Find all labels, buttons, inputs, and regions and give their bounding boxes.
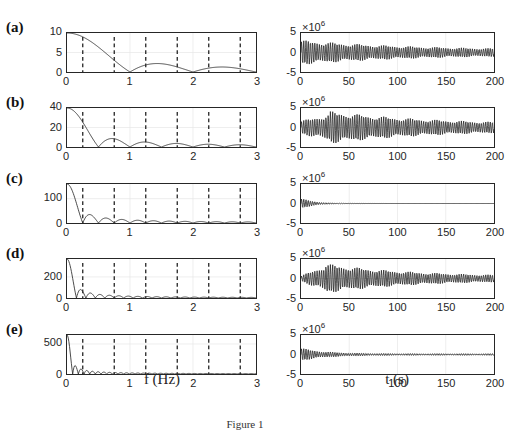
exponent-power: 6 [321, 19, 325, 28]
y-tick-label: 200 [32, 271, 62, 282]
x-tick-label: 0 [51, 227, 81, 238]
x-tick-label: 100 [383, 302, 413, 313]
exponent-power: 6 [321, 321, 325, 330]
left-xlabel: f (Hz) [112, 371, 212, 388]
x-tick-label: 0 [51, 378, 81, 389]
x-tick-label: 150 [431, 76, 461, 87]
y-tick-label: 0 [266, 349, 296, 360]
y-tick-label: 10 [32, 26, 62, 37]
y-scale-exponent: ×106 [302, 321, 325, 335]
y-tick-label: 0 [266, 198, 296, 209]
time-history-axes [300, 334, 495, 375]
x-tick-label: 0 [51, 76, 81, 87]
x-tick-label: 100 [383, 227, 413, 238]
panel-label: (c) [6, 170, 23, 187]
x-tick-label: 1 [115, 76, 145, 87]
spectrum-axes [66, 334, 257, 375]
time-history-axes [300, 258, 495, 299]
panel-label: (d) [6, 245, 24, 262]
y-tick-label: 0 [266, 47, 296, 58]
panel-label: (e) [6, 321, 23, 338]
y-tick-label: 100 [32, 192, 62, 203]
y-tick-label: 5 [266, 177, 296, 188]
x-tick-label: 200 [480, 378, 510, 389]
y-tick-label: 5 [266, 328, 296, 339]
x-tick-label: 150 [431, 227, 461, 238]
spectrum-axes [66, 107, 257, 148]
y-tick-label: 0 [266, 273, 296, 284]
y-tick-label: 40 [32, 101, 62, 112]
spectrum-axes [66, 183, 257, 224]
y-scale-exponent: ×106 [302, 170, 325, 184]
x-tick-label: 0 [285, 151, 315, 162]
x-tick-label: 2 [178, 151, 208, 162]
x-tick-label: 2 [178, 76, 208, 87]
x-tick-label: 200 [480, 151, 510, 162]
x-tick-label: 50 [334, 227, 364, 238]
x-tick-label: 50 [334, 151, 364, 162]
x-tick-label: 50 [334, 76, 364, 87]
spectrum-axes [66, 32, 257, 73]
x-tick-label: 2 [178, 302, 208, 313]
x-tick-label: 200 [480, 302, 510, 313]
x-tick-label: 100 [383, 76, 413, 87]
time-history-axes [300, 107, 495, 148]
x-tick-label: 0 [51, 302, 81, 313]
exponent-base: ×10 [302, 247, 321, 259]
panel-label: (b) [6, 94, 24, 111]
y-tick-label: 500 [32, 337, 62, 348]
x-tick-label: 0 [285, 302, 315, 313]
y-tick-label: 20 [32, 122, 62, 133]
x-tick-label: 2 [178, 227, 208, 238]
x-tick-label: 0 [285, 378, 315, 389]
figure-caption: Figure 1 [195, 418, 295, 430]
right-xlabel: t (s) [347, 371, 447, 388]
y-scale-exponent: ×106 [302, 245, 325, 259]
spectrum-axes [66, 258, 257, 299]
time-history-axes [300, 183, 495, 224]
x-tick-label: 100 [383, 151, 413, 162]
x-tick-label: 150 [431, 302, 461, 313]
y-tick-label: 0 [266, 122, 296, 133]
y-tick-label: 5 [266, 101, 296, 112]
x-tick-label: 150 [431, 151, 461, 162]
exponent-power: 6 [321, 94, 325, 103]
y-scale-exponent: ×106 [302, 19, 325, 33]
x-tick-label: 1 [115, 227, 145, 238]
y-tick-label: 5 [266, 252, 296, 263]
exponent-base: ×10 [302, 96, 321, 108]
time-history-axes [300, 32, 495, 73]
x-tick-label: 50 [334, 302, 364, 313]
exponent-power: 6 [321, 170, 325, 179]
x-tick-label: 200 [480, 76, 510, 87]
x-tick-label: 0 [285, 76, 315, 87]
x-tick-label: 0 [285, 227, 315, 238]
y-tick-label: 5 [266, 26, 296, 37]
y-tick-label: 5 [32, 47, 62, 58]
exponent-base: ×10 [302, 172, 321, 184]
x-tick-label: 0 [51, 151, 81, 162]
x-tick-label: 1 [115, 302, 145, 313]
exponent-base: ×10 [302, 323, 321, 335]
exponent-power: 6 [321, 245, 325, 254]
y-scale-exponent: ×106 [302, 94, 325, 108]
panel-label: (a) [6, 19, 24, 36]
x-tick-label: 1 [115, 151, 145, 162]
exponent-base: ×10 [302, 21, 321, 33]
x-tick-label: 200 [480, 227, 510, 238]
